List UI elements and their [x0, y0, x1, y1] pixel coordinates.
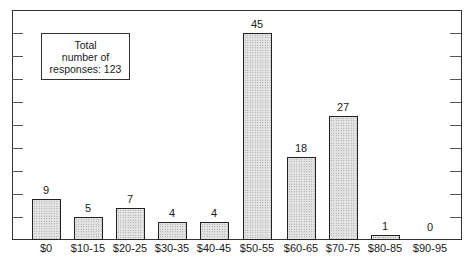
total-responses-annotation: Total number of responses: 123: [41, 33, 130, 80]
y-tick-left: [12, 102, 23, 103]
bar-value-label: 27: [323, 101, 363, 113]
y-tick-left: [12, 79, 23, 80]
bar-chart: 9$05$10-157$20-254$30-354$40-4545$50-551…: [0, 0, 471, 260]
bar-value-label: 5: [68, 202, 108, 214]
annotation-line-3: responses: 123: [42, 63, 129, 75]
bar-value-label: 4: [152, 207, 192, 219]
x-tick-label: $90-95: [405, 242, 455, 254]
y-tick-left: [12, 217, 23, 218]
x-tick-label: $50-55: [232, 242, 282, 254]
annotation-line-1: Total: [42, 39, 129, 51]
y-tick-left: [12, 125, 23, 126]
y-tick-left: [12, 148, 23, 149]
y-tick-left: [12, 33, 23, 34]
bar: [200, 222, 229, 240]
bar: [116, 208, 145, 240]
bar-value-label: 0: [410, 221, 450, 233]
y-tick-right: [450, 102, 461, 103]
bar: [329, 116, 358, 240]
y-tick-right: [450, 79, 461, 80]
bar: [74, 217, 103, 240]
y-tick-right: [450, 194, 461, 195]
bar-value-label: 18: [281, 142, 321, 154]
bar-value-label: 9: [26, 184, 66, 196]
bar: [371, 235, 400, 240]
bar: [287, 157, 316, 240]
y-tick-right: [450, 125, 461, 126]
bar-value-label: 45: [237, 18, 277, 30]
y-tick-left: [12, 171, 23, 172]
bar: [32, 199, 61, 240]
y-tick-left: [12, 56, 23, 57]
bar: [243, 33, 272, 240]
y-tick-right: [450, 217, 461, 218]
x-tick-label: $80-85: [360, 242, 410, 254]
annotation-line-2: number of: [42, 51, 129, 63]
bar-value-label: 7: [110, 193, 150, 205]
bar-value-label: 1: [365, 220, 405, 232]
y-tick-right: [450, 56, 461, 57]
y-tick-right: [450, 148, 461, 149]
bar-value-label: 4: [194, 207, 234, 219]
y-tick-left: [12, 194, 23, 195]
bar: [158, 222, 187, 240]
y-tick-right: [450, 171, 461, 172]
y-tick-right: [450, 33, 461, 34]
